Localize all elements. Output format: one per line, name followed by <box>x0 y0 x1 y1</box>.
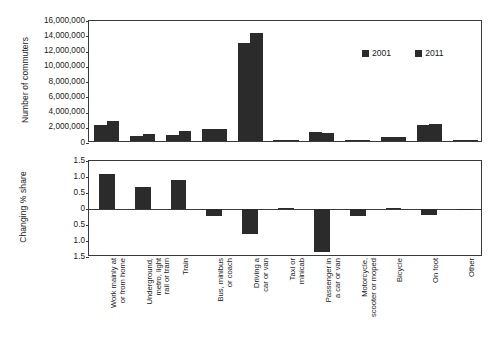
top-chart-y-axis-title: Number of commuters <box>20 19 30 141</box>
bar-share-change <box>421 209 437 215</box>
x-axis-category-label: Motorcycle, scooter or moped <box>361 258 378 350</box>
bar-2011 <box>322 133 335 141</box>
bottom-chart-y-axis-title: Changing % share <box>18 159 28 255</box>
legend-swatch-icon <box>362 50 369 57</box>
x-axis-category-label: Other <box>468 258 477 350</box>
y-axis-tick-mark <box>86 209 89 210</box>
y-axis-tick-label: 0 <box>80 204 85 214</box>
bar-share-change <box>242 209 258 234</box>
bar-share-change <box>206 209 222 216</box>
bar-2001 <box>381 137 394 141</box>
top-chart-bars-container <box>89 21 481 141</box>
y-axis-tick-label: 0.5 <box>74 188 85 198</box>
y-axis-tick-mark <box>86 82 89 83</box>
chart-legend: 20012011 <box>362 48 444 58</box>
x-axis-category-label: Work mainly at or from home <box>110 258 127 350</box>
bar-2011 <box>286 140 299 141</box>
legend-swatch-icon <box>415 50 422 57</box>
bar-2011 <box>179 131 192 141</box>
y-axis-tick-mark <box>86 128 89 129</box>
y-axis-tick-label: 12,000,000 <box>44 46 85 56</box>
bar-share-change <box>314 209 330 252</box>
y-axis-tick-label: 4,000,000 <box>49 107 85 117</box>
bar-2001 <box>94 125 107 141</box>
bar-share-change <box>99 174 115 209</box>
bar-2011 <box>393 137 406 141</box>
y-axis-tick-label: 1.0 <box>74 236 85 246</box>
x-axis-category-label: Bus, minibus or coach <box>217 258 234 350</box>
y-axis-tick-mark <box>86 36 89 37</box>
bar-2011 <box>250 33 263 141</box>
bar-share-change <box>386 208 402 209</box>
y-axis-tick-label: 0.5 <box>74 220 85 230</box>
x-axis-category-label: Train <box>182 258 191 350</box>
x-axis-category-label: Passenger in a car or van <box>325 258 342 350</box>
x-axis-category-label: On foot <box>432 258 441 350</box>
y-axis-tick-label: 8,000,000 <box>49 77 85 87</box>
y-axis-tick-label: 0 <box>80 138 85 148</box>
bar-2011 <box>214 129 227 141</box>
bar-2011 <box>107 121 120 141</box>
bar-2001 <box>130 136 143 141</box>
commuting-mode-figure: Number of commuters 16,000,00014,000,000… <box>0 0 503 353</box>
x-axis-category-label: Taxi or minicab <box>289 258 306 350</box>
x-axis-category-label: Driving a car or van <box>253 258 270 350</box>
y-axis-tick-label: 2,000,000 <box>49 122 85 132</box>
bar-2011 <box>358 140 371 141</box>
y-axis-tick-mark <box>86 241 89 242</box>
x-axis-category-label: Bicycle <box>396 258 405 350</box>
y-axis-tick-label: 1.0 <box>74 172 85 182</box>
y-axis-tick-mark <box>86 67 89 68</box>
bar-2001 <box>417 125 430 141</box>
bar-share-change <box>350 209 366 216</box>
y-axis-tick-mark <box>86 113 89 114</box>
bar-2011 <box>429 124 442 141</box>
y-axis-tick-mark <box>86 143 89 144</box>
bar-2001 <box>453 140 466 141</box>
bottom-chart-plot-area: 1.51.00.500.51.01.5 <box>88 160 482 256</box>
y-axis-tick-label: 1.5 <box>74 252 85 262</box>
bar-share-change <box>457 209 473 210</box>
bar-share-change <box>171 180 187 209</box>
bar-2001 <box>238 43 251 141</box>
bar-2001 <box>345 140 358 141</box>
y-axis-tick-label: 14,000,000 <box>44 31 85 41</box>
bar-share-change <box>278 208 294 209</box>
legend-entry-2001: 2001 <box>362 48 391 58</box>
bar-share-change <box>135 187 151 209</box>
legend-label: 2001 <box>372 48 391 58</box>
bar-2011 <box>465 140 478 141</box>
y-axis-tick-mark <box>86 97 89 98</box>
y-axis-tick-mark <box>86 21 89 22</box>
legend-label: 2011 <box>425 48 443 58</box>
x-axis-category-label: Underground, metro, light rail or tram <box>146 258 172 350</box>
bar-2001 <box>309 132 322 141</box>
top-chart-plot-area: 16,000,00014,000,00012,000,00010,000,000… <box>88 20 482 142</box>
y-axis-tick-label: 10,000,000 <box>44 61 85 71</box>
y-axis-tick-mark <box>86 225 89 226</box>
y-axis-tick-label: 1.5 <box>74 156 85 166</box>
y-axis-tick-mark <box>86 177 89 178</box>
legend-entry-2011: 2011 <box>415 48 443 58</box>
y-axis-tick-mark <box>86 193 89 194</box>
y-axis-tick-mark <box>86 161 89 162</box>
bar-2001 <box>166 135 179 141</box>
bar-2001 <box>202 129 215 141</box>
y-axis-tick-label: 6,000,000 <box>49 92 85 102</box>
x-axis-category-labels: Work mainly at or from homeUnderground, … <box>88 258 482 353</box>
bar-2011 <box>143 134 156 141</box>
bar-2001 <box>273 140 286 141</box>
bottom-chart-bars-container <box>89 161 481 255</box>
y-axis-tick-label: 16,000,000 <box>44 16 85 26</box>
y-axis-tick-mark <box>86 52 89 53</box>
